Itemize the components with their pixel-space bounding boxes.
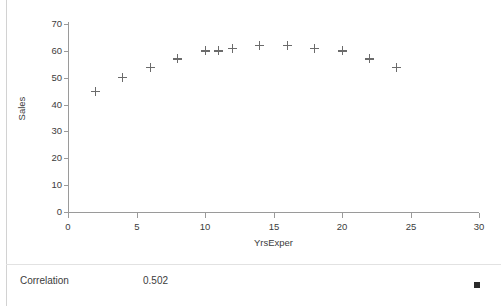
- data-point-marker[interactable]: [201, 46, 210, 55]
- correlation-value: 0.502: [143, 274, 168, 287]
- data-point-marker[interactable]: [310, 44, 319, 53]
- data-point-marker[interactable]: [118, 73, 127, 82]
- worksheet-canvas: 010203040506070 051015202530 Sales YrsEx…: [0, 0, 501, 306]
- data-point-marker[interactable]: [338, 46, 347, 55]
- data-point-marker[interactable]: [146, 63, 155, 72]
- worksheet-separator-line: [6, 264, 501, 265]
- data-point-marker[interactable]: [214, 46, 223, 55]
- data-point-marker[interactable]: [91, 87, 100, 96]
- data-point-marker[interactable]: [392, 63, 401, 72]
- plot-area: [0, 0, 501, 262]
- cell-selection-handle[interactable]: [474, 282, 480, 288]
- data-point-marker[interactable]: [228, 44, 237, 53]
- scatter-chart[interactable]: 010203040506070 051015202530 Sales YrsEx…: [0, 0, 501, 262]
- data-point-marker[interactable]: [283, 41, 292, 50]
- data-point-marker[interactable]: [255, 41, 264, 50]
- data-point-marker[interactable]: [173, 54, 182, 63]
- correlation-row: Correlation 0.502: [0, 274, 501, 296]
- data-point-marker[interactable]: [365, 54, 374, 63]
- correlation-label: Correlation: [20, 274, 69, 287]
